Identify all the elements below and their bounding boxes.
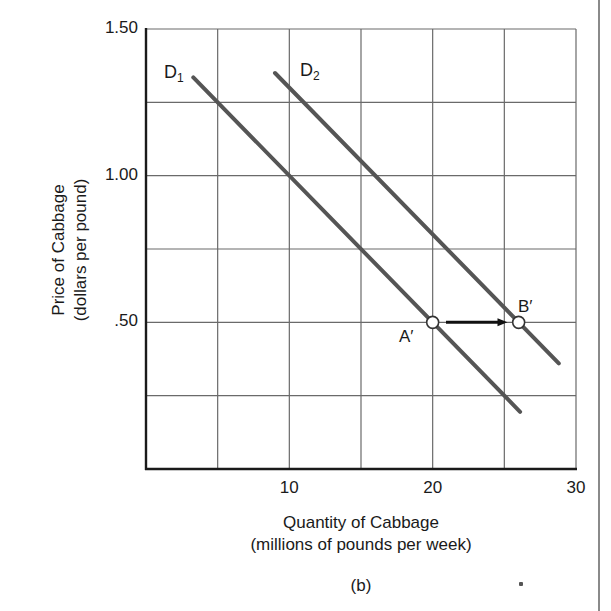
curve-label-d2: D2 — [300, 60, 320, 83]
y-tick-label: 1.50 — [78, 18, 138, 38]
curve-label-sub: 2 — [313, 69, 320, 83]
curve-label-main: D — [300, 60, 313, 80]
curve-label-sub: 1 — [177, 71, 184, 85]
point-label-a-prime: A′ — [399, 327, 414, 347]
x-tick-label: 30 — [556, 478, 596, 498]
shift-arrow-head — [498, 318, 508, 326]
y-axis-unit: (dollars per pound) — [70, 179, 92, 322]
y-axis-label: Price of Cabbage (dollars per pound) — [48, 179, 92, 322]
demand-curve-d1 — [193, 77, 520, 411]
curve-label-d1: D1 — [164, 62, 184, 85]
point-marker — [427, 316, 439, 328]
x-axis-title: Quantity of Cabbage — [250, 512, 471, 534]
x-tick-label: 20 — [413, 478, 453, 498]
point-marker — [513, 316, 525, 328]
x-tick-label: 10 — [269, 478, 309, 498]
point-label-b-prime: B′ — [518, 297, 533, 317]
x-axis-unit: (millions of pounds per week) — [250, 534, 471, 556]
scan-speck — [519, 582, 523, 586]
figure-caption: (b) — [351, 576, 372, 596]
page-divider — [598, 0, 600, 611]
y-axis-title: Price of Cabbage — [48, 179, 70, 322]
x-axis-label: Quantity of Cabbage (millions of pounds … — [250, 512, 471, 556]
curve-label-main: D — [164, 62, 177, 82]
